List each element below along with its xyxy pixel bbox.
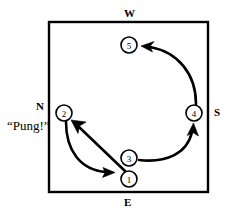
- node-4[interactable]: 4: [186, 105, 202, 121]
- node-1-label: 1: [127, 175, 132, 185]
- direction-label-south: S: [214, 107, 220, 118]
- arrow-4-to-5: [141, 42, 196, 105]
- node-5[interactable]: 5: [121, 37, 137, 53]
- direction-label-west: W: [124, 8, 135, 19]
- arrow-3-to-4: [139, 123, 199, 161]
- direction-label-east: E: [124, 197, 131, 208]
- direction-label-north: N: [36, 101, 44, 112]
- figure-canvas: 1 2 3 4 5: [0, 0, 230, 218]
- node-3-label: 3: [127, 154, 132, 164]
- arrow-1-to-2: [71, 120, 126, 172]
- node-3[interactable]: 3: [121, 150, 137, 166]
- node-5-label: 5: [127, 41, 132, 51]
- node-1[interactable]: 1: [121, 171, 137, 187]
- node-2-label: 2: [62, 109, 67, 119]
- mahjong-play-order-figure: 1 2 3 4 5 N S E W “Pung!”: [0, 0, 230, 218]
- node-2[interactable]: 2: [56, 105, 72, 121]
- arrow-2-to-1: [66, 122, 115, 178]
- pung-callout-label: “Pung!”: [7, 119, 50, 132]
- node-4-label: 4: [192, 109, 197, 119]
